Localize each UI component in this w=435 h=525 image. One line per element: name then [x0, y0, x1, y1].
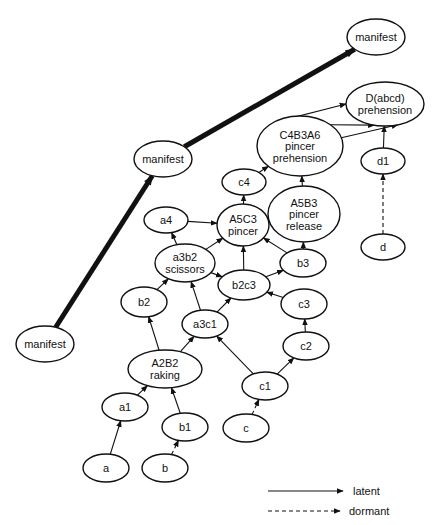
edge-a-to-a1: [110, 421, 120, 454]
node-label: manifest: [24, 338, 66, 350]
node-a3b2: a3b2scissors: [155, 244, 215, 282]
edge-a3b2-to-A5C3: [206, 238, 223, 249]
node-Dabcd: D(abcd)prehension: [346, 82, 424, 126]
node-a3c1: a3c1: [182, 310, 228, 338]
edge-b1-to-A2B2: [171, 388, 180, 414]
node-b: b: [142, 454, 188, 482]
node-label: a1: [119, 401, 131, 413]
node-label: raking: [150, 369, 180, 381]
edge-c-to-c1: [252, 399, 259, 414]
node-A2B2: A2B2raking: [128, 350, 202, 388]
edge-a1-to-A2B2: [137, 386, 147, 395]
node-c3: c3: [281, 289, 327, 319]
node-a: a: [83, 454, 129, 482]
edge-a4-to-A5C3: [188, 221, 217, 223]
legend-dormant-label: dormant: [349, 505, 389, 517]
node-c2: c2: [283, 332, 329, 360]
node-C4B3A6: C4B3A6pincerprehension: [257, 116, 343, 176]
node-b1: b1: [162, 413, 208, 441]
node-label: b2: [138, 296, 150, 308]
node-label: c2: [300, 340, 312, 352]
node-label: pincer: [228, 225, 258, 237]
node-b2c3: b2c3: [218, 270, 270, 300]
edge-A2B2-to-b2: [149, 317, 160, 351]
node-label: a3b2: [173, 251, 197, 263]
node-label: b3: [297, 257, 309, 269]
diagram-canvas: manifestD(abcd)prehensionC4B3A6pincerpre…: [0, 0, 435, 525]
edge-A5B3-to-C4B3A6: [302, 176, 303, 186]
edge-c4-to-C4B3A6: [259, 166, 268, 172]
node-label: b2c3: [232, 279, 256, 291]
node-label: manifest: [355, 31, 397, 43]
edge-c1-to-c2: [277, 358, 294, 374]
edge-b2-to-a3b2: [157, 279, 168, 290]
node-label: b: [162, 462, 168, 474]
node-manifest_left: manifest: [16, 326, 74, 362]
node-A5B3: A5B3pincerrelease: [268, 186, 340, 242]
node-c4: c4: [222, 169, 266, 195]
edge-a3b2-to-a4: [172, 233, 177, 245]
node-label: a4: [160, 214, 172, 226]
node-label: c4: [238, 176, 250, 188]
edge-d1-to-Dabcd: [383, 126, 384, 148]
node-b3: b3: [280, 249, 326, 277]
edge-b3-to-A5C3: [263, 238, 287, 253]
node-label: d1: [377, 155, 389, 167]
node-label: a3c1: [193, 318, 217, 330]
node-label: pincer: [289, 208, 319, 220]
edge-c2-to-c3: [305, 319, 306, 332]
node-manifest_mid: manifest: [134, 141, 192, 177]
edge-a3b2-to-b2c3: [211, 273, 222, 277]
node-c: c: [223, 414, 269, 442]
node-label: c: [243, 422, 249, 434]
node-label: A5B3: [291, 197, 318, 209]
node-label: c1: [259, 380, 271, 392]
edge-A2B2-to-a3c1: [180, 336, 194, 351]
node-label: release: [286, 220, 322, 232]
edge-b-to-b1: [172, 440, 179, 454]
nodes-layer: manifestD(abcd)prehensionC4B3A6pincerpre…: [16, 19, 424, 482]
node-a1: a1: [102, 393, 148, 421]
node-b2: b2: [121, 287, 167, 317]
node-label: pincer: [285, 140, 315, 152]
node-label: A5C3: [229, 213, 257, 225]
legend: latent dormant: [268, 485, 389, 517]
node-d: d: [361, 234, 405, 260]
node-label: A2B2: [152, 357, 179, 369]
node-label: D(abcd): [365, 92, 404, 104]
node-label: manifest: [142, 153, 184, 165]
node-label: scissors: [165, 263, 205, 275]
node-label: C4B3A6: [280, 129, 321, 141]
edge-c3-to-b2c3: [267, 292, 284, 297]
node-a4: a4: [144, 207, 188, 233]
node-d1: d1: [361, 148, 405, 174]
node-label: c3: [298, 298, 310, 310]
node-c1: c1: [242, 372, 288, 400]
node-manifest_top: manifest: [347, 19, 405, 55]
node-label: b1: [179, 421, 191, 433]
node-A5C3: A5C3pincer: [217, 204, 269, 246]
edge-C4B3A6-to-Dabcd: [341, 125, 398, 138]
edge-a3c1-to-b2c3: [217, 298, 231, 312]
node-label: a: [103, 462, 110, 474]
edge-c1-to-a3c1: [217, 336, 254, 374]
edge-b2c3-to-b3: [266, 270, 284, 277]
legend-latent-label: latent: [353, 485, 380, 497]
node-label: d: [380, 241, 386, 253]
edge-a3c1-to-a3b2: [191, 282, 200, 311]
node-label: prehension: [273, 152, 327, 164]
node-label: prehension: [358, 104, 412, 116]
